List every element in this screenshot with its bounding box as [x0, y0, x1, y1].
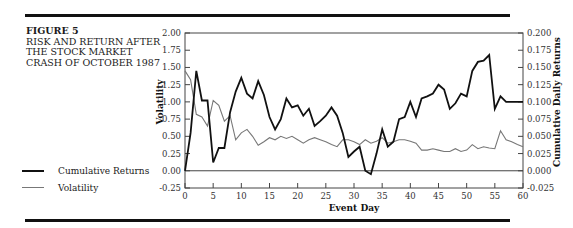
right-tick-label: 0.075: [527, 114, 551, 124]
left-tick-label: 1.50: [162, 62, 181, 72]
left-tick-label: 0.50: [162, 131, 181, 141]
plot-frame: [185, 33, 523, 188]
left-tick-label: 2.00: [162, 28, 181, 38]
right-tick-label: 0.100: [527, 97, 551, 107]
right-tick-label: -0.025: [527, 183, 554, 193]
x-tick-label: 10: [236, 191, 247, 201]
right-tick-label: 0.000: [527, 166, 551, 176]
x-tick-label: 25: [320, 191, 331, 201]
cumulative-returns-series-line: [185, 55, 523, 174]
right-tick-label: 0.125: [527, 80, 551, 90]
right-tick-label: 0.200: [527, 28, 551, 38]
left-tick-label: 0.25: [162, 149, 181, 159]
left-y-axis-title: Volatility: [155, 79, 165, 126]
x-axis-title: Event Day: [329, 203, 380, 213]
right-tick-label: 0.050: [527, 131, 551, 141]
right-tick-label: 0.025: [527, 149, 551, 159]
right-tick-label: 0.175: [527, 45, 551, 55]
x-tick-label: 35: [377, 191, 388, 201]
x-tick-label: 60: [518, 191, 529, 201]
x-tick-label: 15: [264, 191, 275, 201]
right-y-axis-title: Cumulative Daily Returns: [552, 37, 562, 167]
x-tick-label: 0: [182, 191, 187, 201]
x-tick-label: 55: [489, 191, 500, 201]
x-tick-label: 45: [433, 191, 444, 201]
left-tick-label: -0.25: [159, 183, 181, 193]
x-tick-label: 40: [405, 191, 416, 201]
x-tick-label: 20: [292, 191, 303, 201]
x-axis: 051015202530354045505560: [182, 183, 528, 201]
volatility-series-line: [185, 71, 523, 152]
line-chart: -0.250.000.250.500.751.001.251.501.752.0…: [0, 0, 573, 228]
right-tick-label: 0.150: [527, 62, 551, 72]
left-tick-label: 1.75: [162, 45, 181, 55]
x-tick-label: 30: [349, 191, 360, 201]
x-tick-label: 5: [210, 191, 215, 201]
left-tick-label: 0.00: [162, 166, 181, 176]
x-tick-label: 50: [461, 191, 472, 201]
